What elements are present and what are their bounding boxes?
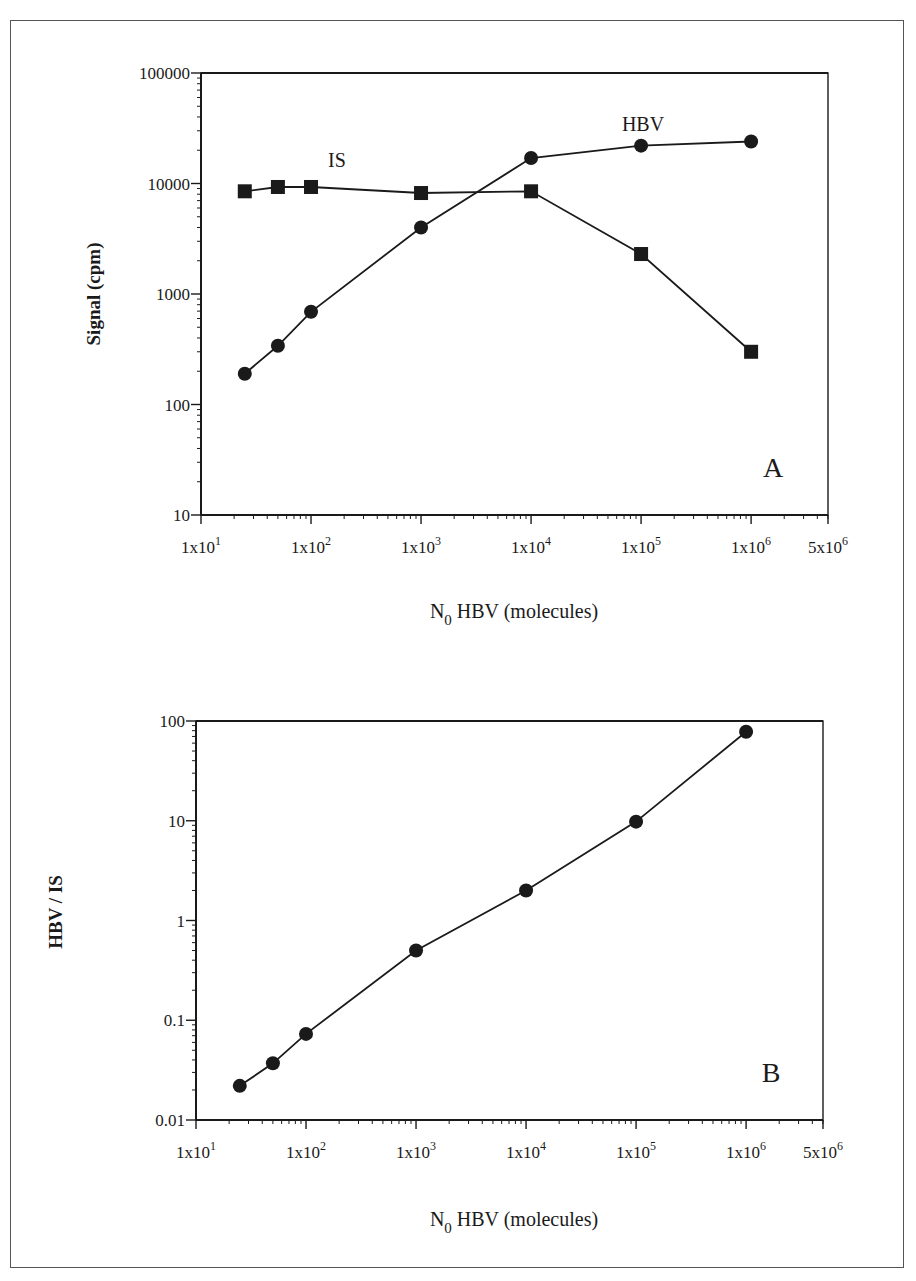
circle-marker bbox=[304, 305, 318, 319]
circle-marker bbox=[744, 134, 758, 148]
x-tick-label: 5x106 bbox=[803, 1139, 843, 1162]
panel-a-is-series-label: IS bbox=[328, 149, 346, 171]
y-tick-label: 100 bbox=[160, 712, 186, 731]
series-line-is bbox=[245, 187, 751, 352]
x-tick-label: 5x106 bbox=[808, 534, 848, 557]
circle-marker bbox=[271, 339, 285, 353]
series-line-hbv-is bbox=[240, 732, 746, 1086]
circle-marker bbox=[409, 944, 423, 958]
y-tick-label: 100 bbox=[165, 396, 191, 415]
x-tick-label: 1x105 bbox=[621, 534, 661, 557]
x-tick-label: 1x102 bbox=[286, 1139, 326, 1162]
square-marker bbox=[744, 345, 758, 359]
x-tick-label: 1x101 bbox=[181, 534, 221, 557]
x-tick-label: 1x104 bbox=[511, 534, 551, 557]
square-marker bbox=[634, 247, 648, 261]
x-tick-label: 1x101 bbox=[176, 1139, 216, 1162]
panel-a-series bbox=[238, 134, 758, 380]
y-tick-label: 0.01 bbox=[155, 1111, 185, 1130]
y-tick-label: 100000 bbox=[139, 64, 190, 83]
y-tick-label: 1 bbox=[177, 912, 186, 931]
panel-b-chart: 0.010.11101001x1011x1021x1031x1041x1051x… bbox=[45, 712, 843, 1236]
circle-marker bbox=[238, 367, 252, 381]
panel-a-axes: 101001000100001000001x1011x1021x1031x104… bbox=[139, 64, 848, 557]
x-tick-label: 1x106 bbox=[731, 534, 771, 557]
circle-marker bbox=[629, 815, 643, 829]
y-tick-label: 0.1 bbox=[164, 1011, 185, 1030]
y-tick-label: 1000 bbox=[156, 285, 190, 304]
panel-a-chart: 101001000100001000001x1011x1021x1031x104… bbox=[83, 64, 848, 628]
y-tick-label: 10 bbox=[168, 812, 185, 831]
plot-area-border bbox=[196, 721, 823, 1120]
panel-a-x-axis-label: N0 HBV (molecules) bbox=[430, 600, 598, 628]
panel-a-letter: A bbox=[763, 452, 784, 483]
circle-marker bbox=[524, 151, 538, 165]
panel-b-y-axis-label: HBV / IS bbox=[45, 875, 66, 949]
x-tick-label: 1x105 bbox=[616, 1139, 656, 1162]
figure-canvas: 101001000100001000001x1011x1021x1031x104… bbox=[0, 0, 916, 1281]
x-tick-label: 1x104 bbox=[506, 1139, 546, 1162]
panel-b-axes: 0.010.11101001x1011x1021x1031x1041x1051x… bbox=[155, 712, 843, 1162]
y-tick-label: 10 bbox=[173, 506, 190, 525]
circle-marker bbox=[414, 220, 428, 234]
circle-marker bbox=[266, 1056, 280, 1070]
panel-b-letter: B bbox=[762, 1057, 781, 1088]
circle-marker bbox=[634, 139, 648, 153]
panel-b-series bbox=[233, 725, 753, 1093]
circle-marker bbox=[299, 1027, 313, 1041]
x-tick-label: 1x106 bbox=[726, 1139, 766, 1162]
panel-b-x-axis-label: N0 HBV (molecules) bbox=[430, 1208, 598, 1236]
x-tick-label: 1x103 bbox=[396, 1139, 436, 1162]
square-marker bbox=[304, 180, 318, 194]
square-marker bbox=[238, 184, 252, 198]
square-marker bbox=[414, 186, 428, 200]
plot-area-border bbox=[201, 73, 828, 515]
x-tick-label: 1x103 bbox=[401, 534, 441, 557]
x-tick-label: 1x102 bbox=[291, 534, 331, 557]
circle-marker bbox=[519, 883, 533, 897]
circle-marker bbox=[739, 725, 753, 739]
series-line-hbv bbox=[245, 141, 751, 373]
y-tick-label: 10000 bbox=[148, 175, 191, 194]
square-marker bbox=[524, 184, 538, 198]
panel-a-y-axis-label: Signal (cpm) bbox=[83, 243, 105, 346]
circle-marker bbox=[233, 1079, 247, 1093]
square-marker bbox=[271, 180, 285, 194]
panel-a-hbv-series-label: HBV bbox=[622, 113, 665, 135]
